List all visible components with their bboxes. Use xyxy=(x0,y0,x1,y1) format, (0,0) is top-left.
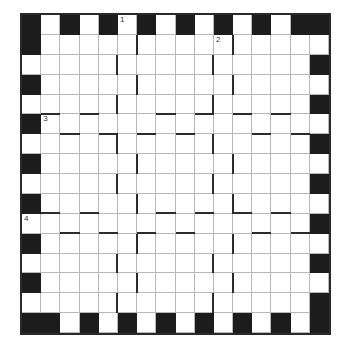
grid-cell[interactable] xyxy=(80,154,99,174)
grid-cell[interactable] xyxy=(291,95,310,115)
grid-cell[interactable] xyxy=(137,95,156,115)
grid-cell[interactable] xyxy=(118,154,137,174)
grid-cell[interactable] xyxy=(80,194,99,214)
grid-cell[interactable] xyxy=(176,293,195,313)
grid-cell[interactable] xyxy=(137,273,156,293)
grid-cell[interactable] xyxy=(99,35,118,55)
grid-cell[interactable] xyxy=(41,234,60,254)
grid-cell[interactable] xyxy=(80,174,99,194)
grid-cell[interactable] xyxy=(233,273,252,293)
grid-cell[interactable] xyxy=(176,234,195,254)
grid-cell[interactable] xyxy=(80,273,99,293)
grid-cell[interactable] xyxy=(214,254,233,274)
grid-cell[interactable] xyxy=(60,35,79,55)
grid-cell[interactable] xyxy=(156,55,175,75)
grid-cell[interactable]: 1 xyxy=(118,15,137,35)
grid-cell[interactable] xyxy=(80,293,99,313)
grid-cell[interactable]: 3 xyxy=(41,114,60,134)
grid-cell[interactable] xyxy=(252,35,271,55)
grid-cell[interactable] xyxy=(291,214,310,234)
grid-cell[interactable] xyxy=(60,313,79,333)
grid-cell[interactable] xyxy=(156,75,175,95)
grid-cell[interactable] xyxy=(156,134,175,154)
grid-cell[interactable] xyxy=(195,134,214,154)
grid-cell[interactable] xyxy=(137,313,156,333)
grid-cell[interactable] xyxy=(99,95,118,115)
grid-cell[interactable] xyxy=(60,114,79,134)
grid-cell[interactable] xyxy=(118,254,137,274)
grid-cell[interactable] xyxy=(233,254,252,274)
grid-cell[interactable] xyxy=(310,273,329,293)
grid-cell[interactable] xyxy=(176,114,195,134)
grid-cell[interactable] xyxy=(156,273,175,293)
grid-cell[interactable] xyxy=(156,194,175,214)
grid-cell[interactable] xyxy=(291,35,310,55)
grid-cell[interactable] xyxy=(118,95,137,115)
grid-cell[interactable] xyxy=(271,114,290,134)
grid-cell[interactable] xyxy=(60,154,79,174)
grid-cell[interactable] xyxy=(156,35,175,55)
grid-cell[interactable] xyxy=(233,154,252,174)
grid-cell[interactable] xyxy=(271,75,290,95)
grid-cell[interactable] xyxy=(41,154,60,174)
grid-cell[interactable] xyxy=(156,154,175,174)
grid-cell[interactable] xyxy=(291,313,310,333)
grid-cell[interactable] xyxy=(252,55,271,75)
grid-cell[interactable] xyxy=(310,194,329,214)
grid-cell[interactable] xyxy=(156,114,175,134)
grid-cell[interactable] xyxy=(118,114,137,134)
grid-cell[interactable] xyxy=(176,214,195,234)
grid-cell[interactable] xyxy=(271,254,290,274)
grid-cell[interactable] xyxy=(99,293,118,313)
grid-cell[interactable]: 2 xyxy=(214,35,233,55)
grid-cell[interactable] xyxy=(60,214,79,234)
grid-cell[interactable] xyxy=(137,35,156,55)
grid-cell[interactable] xyxy=(176,55,195,75)
grid-cell[interactable] xyxy=(214,95,233,115)
grid-cell[interactable] xyxy=(118,214,137,234)
grid-cell[interactable] xyxy=(176,95,195,115)
grid-cell[interactable] xyxy=(80,75,99,95)
grid-cell[interactable] xyxy=(176,254,195,274)
grid-cell[interactable] xyxy=(291,234,310,254)
grid-cell[interactable] xyxy=(195,214,214,234)
grid-cell[interactable] xyxy=(137,174,156,194)
grid-cell[interactable] xyxy=(137,214,156,234)
grid-cell[interactable] xyxy=(118,134,137,154)
grid-cell[interactable] xyxy=(252,273,271,293)
grid-cell[interactable] xyxy=(22,254,41,274)
grid-cell[interactable] xyxy=(80,35,99,55)
grid-cell[interactable] xyxy=(60,174,79,194)
grid-cell[interactable] xyxy=(99,254,118,274)
grid-cell[interactable] xyxy=(214,313,233,333)
grid-cell[interactable] xyxy=(118,174,137,194)
grid-cell[interactable] xyxy=(118,75,137,95)
grid-cell[interactable] xyxy=(271,194,290,214)
grid-cell[interactable] xyxy=(271,15,290,35)
grid-cell[interactable] xyxy=(252,95,271,115)
grid-cell[interactable] xyxy=(60,293,79,313)
grid-cell[interactable] xyxy=(195,114,214,134)
grid-cell[interactable] xyxy=(41,95,60,115)
grid-cell[interactable] xyxy=(233,75,252,95)
grid-cell[interactable] xyxy=(176,75,195,95)
grid-cell[interactable] xyxy=(176,313,195,333)
grid-cell[interactable] xyxy=(80,114,99,134)
grid-cell[interactable] xyxy=(195,15,214,35)
grid-cell[interactable] xyxy=(137,254,156,274)
grid-cell[interactable] xyxy=(118,35,137,55)
grid-cell[interactable] xyxy=(176,154,195,174)
grid-cell[interactable] xyxy=(233,95,252,115)
grid-cell[interactable] xyxy=(233,194,252,214)
grid-cell[interactable] xyxy=(252,174,271,194)
grid-cell[interactable] xyxy=(233,35,252,55)
grid-cell[interactable] xyxy=(41,273,60,293)
grid-cell[interactable] xyxy=(195,254,214,274)
grid-cell[interactable] xyxy=(195,95,214,115)
grid-cell[interactable] xyxy=(80,234,99,254)
grid-cell[interactable] xyxy=(99,313,118,333)
grid-cell[interactable] xyxy=(137,154,156,174)
grid-cell[interactable] xyxy=(271,154,290,174)
grid-cell[interactable] xyxy=(176,194,195,214)
grid-cell[interactable] xyxy=(41,55,60,75)
